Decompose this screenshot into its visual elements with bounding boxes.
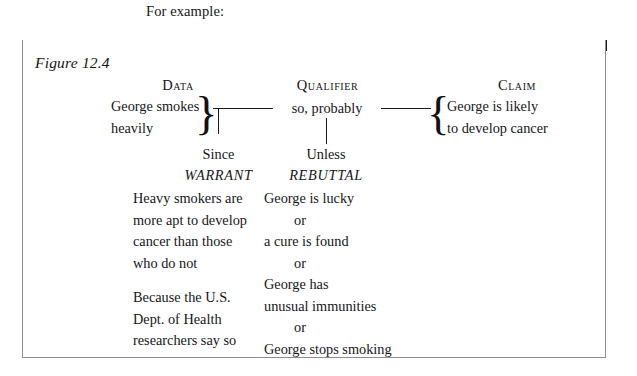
claim-header: Claim	[498, 77, 536, 93]
claim-line-1: George is likely	[447, 96, 597, 118]
claim-line-2: to develop cancer	[447, 118, 597, 140]
rebuttal-block: George is lucky or a cure is found or Ge…	[264, 188, 434, 360]
rebuttal-header: REBUTTAL	[289, 167, 363, 183]
rebuttal-connector-wrap: Unless	[266, 144, 386, 166]
data-line-1: George smokes	[111, 96, 241, 118]
qualifier-text: so, probably	[292, 100, 363, 116]
connector-data-to-qualifier	[213, 108, 273, 109]
connector-qualifier-to-claim	[381, 108, 431, 109]
warrant-connector: Since	[203, 146, 235, 162]
rebuttal-line-5: George has	[264, 274, 434, 296]
data-right-brace: }	[195, 90, 218, 137]
data-block: George smokes heavily	[111, 96, 241, 139]
warrant-connector-wrap: Since	[156, 144, 281, 166]
rebuttal-line-1: George is lucky	[264, 188, 434, 210]
rebuttal-line-4: or	[264, 253, 434, 275]
qualifier-header-wrap: Qualifier	[265, 76, 390, 94]
warrant-header-wrap: WARRANT	[156, 166, 281, 184]
warrant-header: WARRANT	[184, 167, 252, 183]
rebuttal-line-2: or	[264, 210, 434, 232]
rebuttal-line-6: unusual immunities	[264, 296, 434, 318]
figure-caption: Figure 12.4	[35, 54, 110, 72]
connector-down-to-unless	[326, 118, 327, 144]
intro-text: For example:	[146, 2, 224, 20]
connector-down-to-since	[218, 108, 219, 134]
figure-box: Figure 12.4 Data George smokes heavily }…	[22, 40, 606, 358]
rebuttal-line-7: or	[264, 317, 434, 339]
data-header: Data	[162, 77, 194, 93]
qualifier-text-wrap: so, probably	[271, 98, 383, 120]
rebuttal-line-3: a cure is found	[264, 231, 434, 253]
qualifier-header: Qualifier	[297, 77, 358, 93]
claim-block: George is likely to develop cancer	[447, 96, 597, 139]
rebuttal-line-8: George stops smoking	[264, 339, 434, 361]
rebuttal-header-wrap: REBUTTAL	[266, 166, 386, 184]
data-line-2: heavily	[111, 118, 241, 140]
rebuttal-connector: Unless	[307, 146, 346, 162]
data-header-wrap: Data	[119, 76, 237, 94]
claim-header-wrap: Claim	[447, 76, 587, 94]
